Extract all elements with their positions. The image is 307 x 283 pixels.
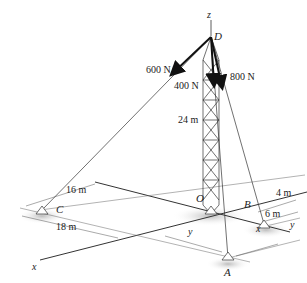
dim-x bbox=[236, 244, 278, 256]
dim-y-label: y bbox=[187, 226, 193, 237]
dim-16m-label: 16 m bbox=[66, 184, 87, 195]
force-800-label: 800 N bbox=[230, 71, 255, 82]
dim-6m-label: 6 m bbox=[265, 208, 281, 219]
x-axis-label: x bbox=[31, 261, 37, 272]
force-600-label: 600 N bbox=[146, 64, 171, 75]
point-c-label: C bbox=[56, 203, 64, 215]
z-axis-label: z bbox=[206, 9, 211, 20]
point-a-label: A bbox=[223, 266, 231, 278]
dim-4m-label: 4 m bbox=[276, 187, 292, 198]
guyed-tower-diagram: z D 600 N 400 N 800 N 24 m O B C A 16 m … bbox=[0, 0, 307, 283]
point-b-label: B bbox=[244, 198, 251, 210]
force-400-label: 400 N bbox=[174, 80, 199, 91]
force-600-arrow bbox=[172, 37, 211, 74]
dim-height-label: 24 m bbox=[178, 114, 199, 125]
dim-18m-label: 18 m bbox=[56, 221, 77, 232]
dim-x-label: x bbox=[255, 223, 261, 234]
point-d-label: D bbox=[213, 30, 222, 42]
y-axis-label: y bbox=[289, 219, 295, 230]
point-o-label: O bbox=[196, 192, 204, 204]
